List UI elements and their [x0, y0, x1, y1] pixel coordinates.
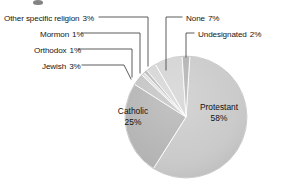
leader-line-orthodox [78, 49, 132, 77]
callout-label-none: None7% [186, 14, 219, 23]
pie-chart-figure: Other specific religion3% Mormon1% Ortho… [0, 0, 282, 187]
callout-label-orthodox: Orthodox1% [34, 46, 81, 55]
callout-label-other-specific-religion: Other specific religion3% [4, 14, 94, 23]
pie-chart-graphic [0, 0, 282, 187]
leader-line-jewish [82, 65, 131, 79]
callout-name-undesignated: Undesignated [198, 30, 247, 39]
callout-pct-jewish: 3% [69, 62, 81, 71]
leader-line-mormon [82, 33, 140, 73]
slice-name-protestant: Protestant [186, 102, 252, 113]
callout-name-other-specific-religion: Other specific religion [4, 14, 80, 23]
callout-label-jewish: Jewish3% [42, 62, 81, 71]
callout-name-orthodox: Orthodox [34, 46, 67, 55]
callout-pct-undesignated: 2% [250, 30, 262, 39]
slice-label-catholic: Catholic 25% [104, 106, 162, 127]
scan-artifact-mark [33, 0, 43, 5]
callout-name-none: None [186, 14, 205, 23]
callout-pct-mormon: 1% [72, 30, 84, 39]
slice-pct-protestant: 58% [186, 113, 252, 124]
slice-pct-catholic: 25% [104, 117, 162, 128]
callout-name-jewish: Jewish [42, 62, 66, 71]
callout-label-undesignated: Undesignated2% [198, 30, 261, 39]
slice-label-protestant: Protestant 58% [186, 102, 252, 123]
leader-line-undesignated [186, 33, 194, 57]
slice-name-catholic: Catholic [104, 106, 162, 117]
callout-pct-other-specific-religion: 3% [83, 14, 95, 23]
callout-name-mormon: Mormon [40, 30, 69, 39]
callout-label-mormon: Mormon1% [40, 30, 84, 39]
callout-pct-none: 7% [208, 14, 220, 23]
leader-line-other-specific-religion [99, 17, 148, 66]
callout-pct-orthodox: 1% [70, 46, 82, 55]
